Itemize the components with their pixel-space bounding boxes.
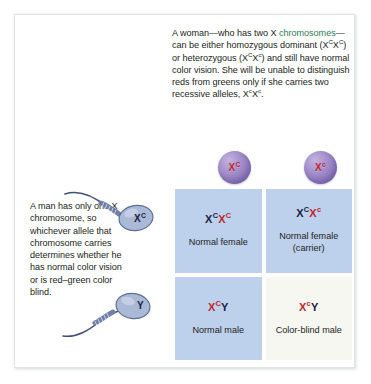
punnett-cell-colorblind-male: XcY Color-blind male [266, 277, 353, 361]
egg-cell-recessive: Xc [304, 151, 337, 184]
phenotype-normal-female: Normal female [189, 237, 248, 249]
sperm-cell-dominant: XC [61, 191, 161, 237]
genetics-figure-panel: A woman—who has two X chromosomes—can be… [14, 14, 355, 368]
sperm-y-icon [61, 292, 161, 338]
genotype-normal-male: XCY [208, 301, 229, 313]
sperm-cell-y: Y [61, 292, 161, 338]
genotype-normal-female: XCXC [205, 213, 231, 225]
punnett-cell-carrier-female: XCXc Normal female (carrier) [266, 189, 353, 273]
sperm-y-allele-label: Y [137, 300, 144, 311]
punnett-cell-normal-female: XCXC Normal female [175, 189, 262, 273]
genotype-carrier-female: XCXc [296, 207, 321, 219]
egg-recessive-allele-label: Xc [315, 162, 326, 173]
phenotype-carrier-female: Normal female (carrier) [269, 231, 350, 254]
female-inheritance-caption: A woman—who has two X chromosomes—can be… [172, 27, 350, 101]
egg-dominant-allele-label: XC [229, 162, 241, 173]
female-caption-text: A woman—who has two X chromosomes—can be… [172, 28, 350, 99]
phenotype-normal-male: Normal male [192, 325, 244, 337]
sperm-dominant-allele-label: XC [134, 213, 146, 224]
egg-cell-dominant: XC [218, 151, 251, 184]
sperm-dominant-icon [61, 191, 161, 237]
punnett-cell-normal-male: XCY Normal male [175, 277, 262, 361]
genotype-colorblind-male: XcY [299, 301, 318, 313]
phenotype-colorblind-male: Color-blind male [276, 325, 342, 337]
punnett-square: XCXC Normal female XCXc Normal female (c… [175, 189, 352, 360]
